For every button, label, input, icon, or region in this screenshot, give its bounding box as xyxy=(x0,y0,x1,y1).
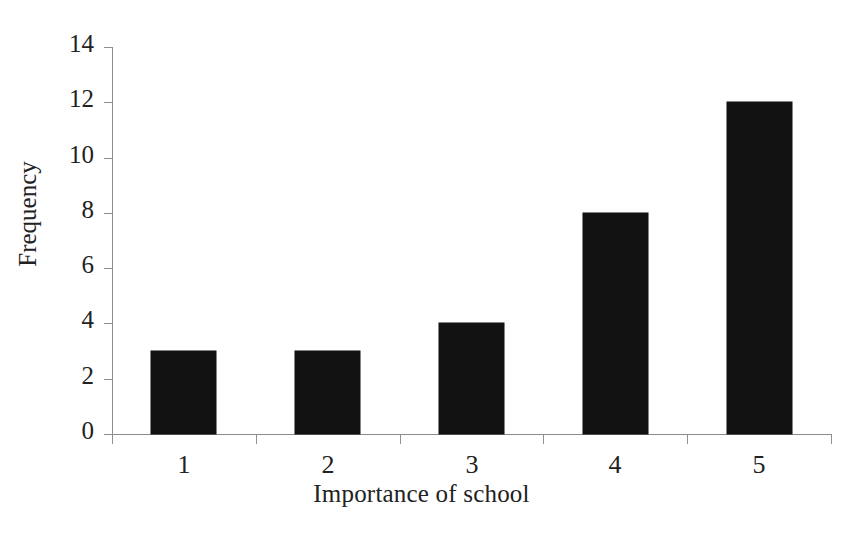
y-axis-tick-label: 4 xyxy=(48,307,94,332)
x-axis-tick xyxy=(831,434,832,444)
y-axis-tick xyxy=(104,102,113,103)
y-axis-tick xyxy=(104,213,113,214)
x-axis-tick xyxy=(543,434,544,444)
y-axis-tick-label: 2 xyxy=(48,363,94,388)
y-axis-title: Frequency xyxy=(14,104,42,324)
x-axis-tick-label: 2 xyxy=(298,452,358,478)
x-axis-tick xyxy=(256,434,257,444)
x-axis-title: Importance of school xyxy=(0,480,861,508)
x-axis-tick-label: 3 xyxy=(442,452,502,478)
x-axis-tick xyxy=(400,434,401,444)
bar xyxy=(151,351,216,434)
chart-page: 02468101214 12345 Frequency Importance o… xyxy=(0,0,861,540)
bar xyxy=(583,213,648,434)
y-axis-tick xyxy=(104,47,113,48)
y-axis-tick xyxy=(104,379,113,380)
bar xyxy=(439,323,504,434)
bar-chart-plot-area: 02468101214 12345 Frequency Importance o… xyxy=(0,0,861,540)
y-axis-tick xyxy=(104,268,113,269)
x-axis-title-text: Importance of school xyxy=(313,480,529,508)
y-axis-tick-label: 12 xyxy=(48,86,94,111)
x-axis-tick-label: 5 xyxy=(729,452,789,478)
y-axis-tick-label: 0 xyxy=(48,418,94,443)
x-axis-tick-label: 1 xyxy=(154,452,214,478)
y-axis-tick-label: 14 xyxy=(48,31,94,56)
y-axis-tick-label: 10 xyxy=(48,142,94,167)
bar xyxy=(295,351,360,434)
x-axis-tick xyxy=(687,434,688,444)
y-axis-tick xyxy=(104,158,113,159)
x-axis-line xyxy=(112,434,831,435)
bar xyxy=(727,102,792,434)
x-axis-tick xyxy=(112,434,113,444)
y-axis-tick-label: 8 xyxy=(48,197,94,222)
y-axis-line xyxy=(112,47,113,435)
x-axis-tick-label: 4 xyxy=(585,452,645,478)
y-axis-tick xyxy=(104,323,113,324)
y-axis-tick-label: 6 xyxy=(48,252,94,277)
